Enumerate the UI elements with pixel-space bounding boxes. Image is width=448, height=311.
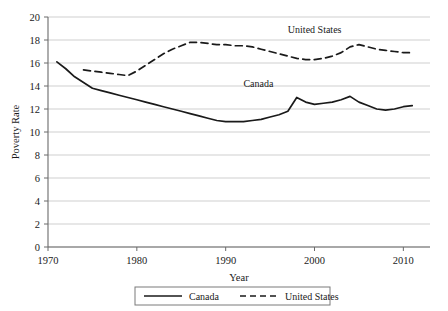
y-tick-label: 10 (30, 127, 41, 138)
legend-label-united-states: United States (285, 291, 339, 302)
legend-label-canada: Canada (189, 291, 220, 302)
x-tick-label: 2010 (393, 255, 414, 266)
x-tick-label: 2000 (304, 255, 325, 266)
y-tick-label: 14 (30, 81, 41, 92)
y-tick-label: 2 (35, 219, 40, 230)
y-tick-label: 4 (35, 196, 41, 207)
y-tick-label: 0 (35, 242, 40, 253)
x-axis-title: Year (229, 272, 249, 283)
x-tick-label: 1980 (126, 255, 147, 266)
y-tick-label: 20 (30, 12, 41, 23)
y-tick-label: 8 (35, 150, 40, 161)
y-tick-label: 6 (35, 173, 40, 184)
x-tick-label: 1990 (215, 255, 236, 266)
chart-legend: Canada United States (135, 287, 339, 305)
y-tick-label: 16 (30, 58, 41, 69)
y-tick-label: 18 (30, 35, 41, 46)
y-axis-title: Poverty Rate (10, 104, 21, 159)
y-tick-label: 12 (30, 104, 41, 115)
inline-label-canada: Canada (243, 78, 274, 89)
inline-label-united-states: United States (288, 24, 342, 35)
poverty-rate-line-chart: 02468101214161820 19701980199020002010 U… (0, 0, 448, 311)
x-tick-label: 1970 (38, 255, 59, 266)
